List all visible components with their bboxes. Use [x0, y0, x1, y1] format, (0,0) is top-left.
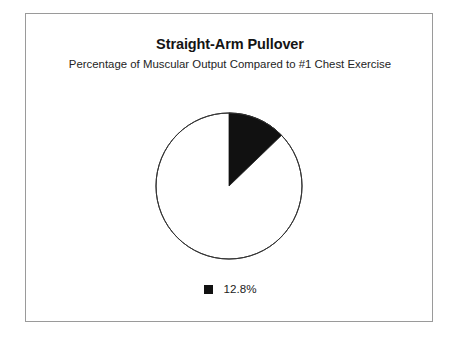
- legend-item[interactable]: 12.8%: [204, 283, 257, 295]
- chart-subtitle: Percentage of Muscular Output Compared t…: [26, 57, 434, 71]
- chart-figure: Straight-Arm Pullover Percentage of Musc…: [0, 0, 459, 343]
- pie-chart: [155, 112, 303, 260]
- legend-item-label: 12.8%: [224, 283, 257, 295]
- chart-title: Straight-Arm Pullover: [26, 36, 434, 53]
- chart-frame: Straight-Arm Pullover Percentage of Musc…: [25, 13, 433, 322]
- pie-chart-svg: [155, 112, 303, 260]
- chart-legend: 12.8%: [26, 283, 434, 295]
- filled-square-icon: [204, 285, 213, 294]
